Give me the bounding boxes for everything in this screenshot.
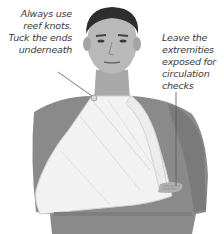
annotation-line: circulation <box>162 68 224 80</box>
annotation-extremities: Leave the extremities exposed for circul… <box>162 32 224 92</box>
annotation-reef-knots: Always use reef knots. Tuck the ends und… <box>4 8 72 56</box>
leader-line-reef-knots <box>58 72 92 96</box>
annotation-line: exposed for <box>162 56 224 68</box>
annotation-line: Leave the <box>162 32 224 44</box>
annotation-line: reef knots. <box>4 20 72 32</box>
annotation-line: checks <box>162 80 224 92</box>
annotation-line: Tuck the ends <box>4 32 72 44</box>
annotation-line: underneath <box>4 44 72 56</box>
annotation-line: Always use <box>4 8 72 20</box>
annotation-line: extremities <box>162 44 224 56</box>
